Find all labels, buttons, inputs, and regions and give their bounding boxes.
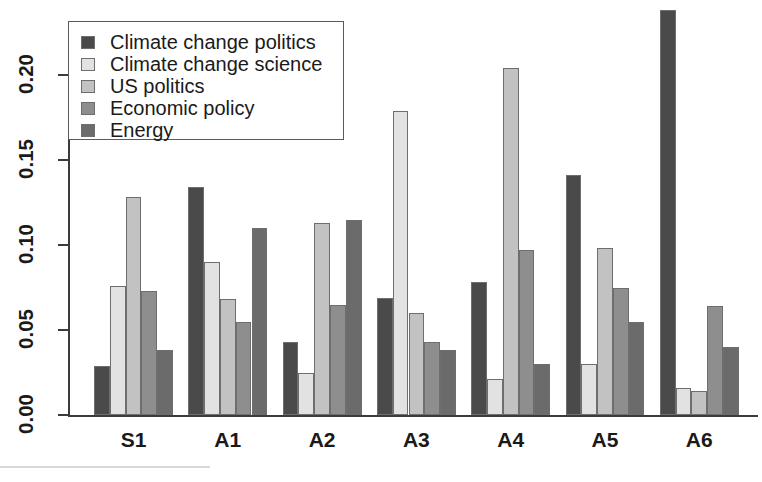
bar-S1-2: [126, 197, 142, 415]
bar-S1-4: [157, 350, 173, 415]
legend-item-2: US politics: [81, 75, 204, 97]
legend-swatch-icon-1: [81, 58, 95, 71]
bar-A1-3: [236, 322, 252, 416]
x-label-A4: A4: [471, 428, 550, 452]
bar-S1-3: [141, 291, 157, 415]
bar-A6-3: [707, 306, 723, 415]
bar-A2-3: [330, 305, 346, 416]
legend-swatch-icon-3: [81, 102, 95, 115]
bar-A5-2: [597, 248, 613, 415]
bar-A5-4: [629, 322, 645, 416]
x-label-A1: A1: [188, 428, 267, 452]
bar-A2-1: [298, 373, 314, 416]
legend-label-4: Energy: [110, 120, 173, 140]
bar-A1-0: [188, 187, 204, 415]
bar-A5-1: [581, 364, 597, 415]
bar-A5-0: [566, 175, 582, 415]
x-label-A3: A3: [377, 428, 456, 452]
x-axis-line: [68, 415, 758, 417]
bar-A4-0: [471, 282, 487, 415]
bar-A4-3: [519, 250, 535, 415]
legend-item-0: Climate change politics: [81, 31, 316, 53]
bar-A5-3: [613, 288, 629, 416]
legend-label-3: Economic policy: [110, 98, 255, 118]
bar-A3-0: [377, 298, 393, 415]
bar-S1-1: [110, 286, 126, 415]
legend-label-0: Climate change politics: [110, 32, 316, 52]
bar-A2-2: [314, 223, 330, 415]
legend-swatch-icon-0: [81, 36, 95, 49]
x-label-S1: S1: [94, 428, 173, 452]
x-label-A2: A2: [283, 428, 362, 452]
legend-item-3: Economic policy: [81, 97, 255, 119]
bar-A4-1: [487, 379, 503, 415]
legend-item-4: Energy: [81, 119, 173, 141]
bar-A4-2: [503, 68, 519, 415]
scan-edge-artifact: [0, 466, 210, 468]
bar-chart: 0.000.050.100.150.20 S1A1A2A3A4A5A6 Clim…: [0, 0, 762, 482]
bar-A1-2: [220, 299, 236, 415]
legend-swatch-icon-2: [81, 80, 95, 93]
bar-A2-0: [283, 342, 299, 415]
legend: Climate change politicsClimate change sc…: [68, 21, 344, 140]
bar-A3-1: [393, 111, 409, 415]
legend-item-1: Climate change science: [81, 53, 322, 75]
bar-A6-1: [676, 388, 692, 415]
bar-A2-4: [346, 220, 362, 416]
bar-A3-2: [409, 313, 425, 415]
bar-A3-3: [424, 342, 440, 415]
legend-label-1: Climate change science: [110, 54, 322, 74]
bar-A1-4: [252, 228, 268, 415]
bar-S1-0: [94, 366, 110, 415]
x-label-A5: A5: [566, 428, 645, 452]
x-label-A6: A6: [660, 428, 739, 452]
bar-A4-4: [534, 364, 550, 415]
bar-A6-2: [691, 391, 707, 415]
bar-A6-4: [723, 347, 739, 415]
bar-A3-4: [440, 350, 456, 415]
bar-A6-0: [660, 10, 676, 415]
legend-swatch-icon-4: [81, 124, 95, 137]
legend-label-2: US politics: [110, 76, 204, 96]
bar-A1-1: [204, 262, 220, 415]
